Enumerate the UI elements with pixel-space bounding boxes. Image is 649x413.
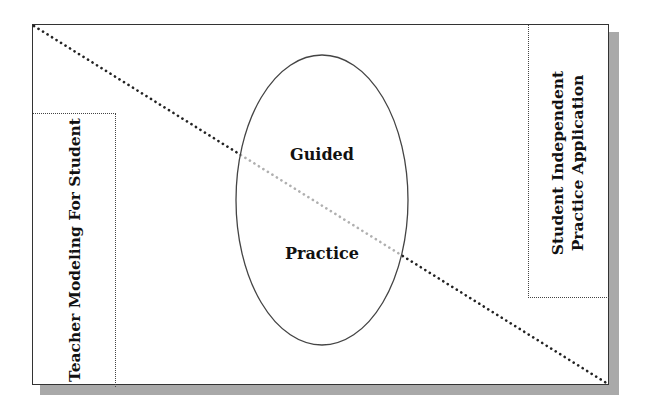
practice-label: Practice [236, 244, 408, 263]
student-independent-label: Student Independent Practice Application [548, 27, 588, 299]
teacher-modeling-label: Teacher Modeling For Student [65, 113, 85, 387]
guided-practice-ellipse [236, 55, 408, 345]
student-independent-label-line2: Practice Application [568, 27, 588, 299]
guided-label: Guided [236, 145, 408, 164]
student-independent-label-line1: Student Independent [548, 27, 568, 299]
